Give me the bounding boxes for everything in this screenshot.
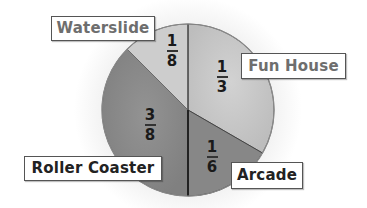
fraction-denominator: 6 (202, 160, 222, 175)
fraction-numerator: 1 (162, 34, 182, 49)
fraction-roller-coaster: 3 8 (140, 108, 160, 143)
fraction-fun-house: 1 3 (212, 60, 232, 95)
label-arcade: Arcade (231, 162, 303, 189)
fraction-denominator: 8 (140, 128, 160, 143)
label-waterslide: Waterslide (51, 16, 155, 41)
fraction-arcade: 1 6 (202, 140, 222, 175)
fraction-numerator: 1 (212, 60, 232, 75)
fraction-waterslide: 1 8 (162, 34, 182, 69)
label-roller-coaster: Roller Coaster (24, 156, 162, 181)
fraction-numerator: 1 (202, 140, 222, 155)
fraction-denominator: 3 (212, 80, 232, 95)
fraction-numerator: 3 (140, 108, 160, 123)
label-fun-house: Fun House (241, 53, 346, 79)
fraction-denominator: 8 (162, 54, 182, 69)
